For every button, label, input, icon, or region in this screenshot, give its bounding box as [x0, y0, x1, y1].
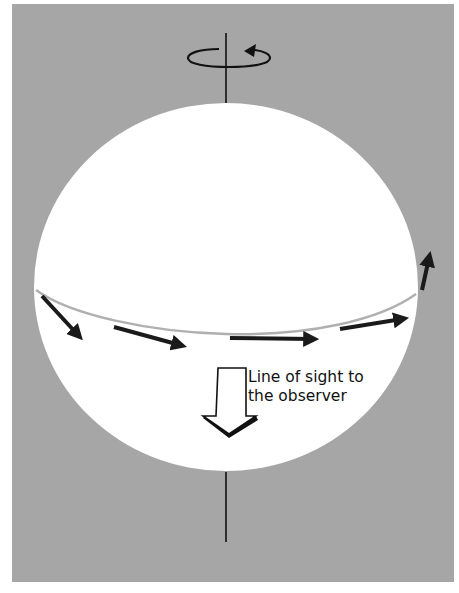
line-of-sight-label-2: the observer: [248, 387, 347, 405]
line-of-sight-label-1: Line of sight to: [248, 368, 364, 386]
velocity-arrow-3: [230, 338, 312, 339]
rotating-sphere-diagram: Line of sight to the observer: [0, 0, 459, 593]
